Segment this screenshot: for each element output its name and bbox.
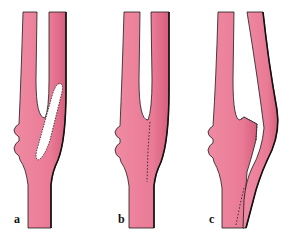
panel-label-c: c [209,213,214,225]
panel-c-vessel [208,12,278,228]
figure [0,0,290,236]
panel-label-b: b [118,213,125,225]
panel-a-vessel [14,12,66,228]
panel-label-a: a [14,213,20,225]
panel-b-vessel [115,12,169,228]
